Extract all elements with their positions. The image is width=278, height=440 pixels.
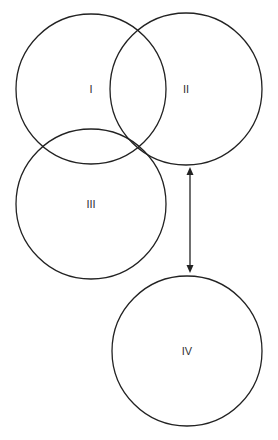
- arrow-head-up-icon: [187, 167, 194, 175]
- arrow-head-down-icon: [187, 265, 194, 273]
- label-iv: IV: [182, 345, 193, 357]
- label-iii: III: [86, 198, 95, 210]
- double-arrow: [187, 167, 194, 273]
- circle-group-iv: IV: [112, 276, 262, 426]
- label-ii: II: [183, 83, 189, 95]
- circle-group-i: I: [16, 14, 166, 164]
- venn-diagram: I II III IV: [0, 0, 278, 440]
- label-i: I: [89, 83, 92, 95]
